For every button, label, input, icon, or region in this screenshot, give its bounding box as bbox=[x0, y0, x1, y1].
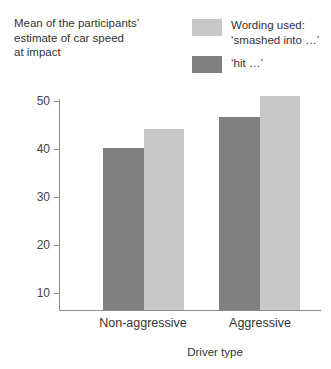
x-axis-line bbox=[59, 310, 321, 311]
y-tick-label-30-wrap: 30 bbox=[20, 191, 50, 203]
y-tick-label-40-wrap: 40 bbox=[20, 143, 50, 155]
x-axis-title: Driver type bbox=[155, 345, 275, 359]
y-tick-label-20: 20 bbox=[24, 239, 50, 251]
y-tick-label-50-wrap: 50 bbox=[20, 95, 50, 107]
bar-non-aggressive-hit bbox=[103, 148, 144, 310]
y-tick-label-50: 50 bbox=[24, 95, 50, 107]
x-group-label-non-aggressive: Non-aggressive bbox=[83, 316, 203, 331]
y-tick-mark-50 bbox=[54, 101, 60, 102]
x-group-label-aggressive: Aggressive bbox=[210, 316, 310, 331]
y-tick-mark-20 bbox=[54, 245, 60, 246]
bar-non-aggressive-smashed-into bbox=[144, 129, 184, 310]
bar-aggressive-hit bbox=[219, 117, 260, 310]
y-tick-label-40: 40 bbox=[24, 143, 50, 155]
y-tick-label-30: 30 bbox=[24, 191, 50, 203]
bar-aggressive-smashed-into bbox=[260, 96, 300, 310]
y-tick-label-10: 10 bbox=[24, 287, 50, 299]
y-tick-mark-30 bbox=[54, 197, 60, 198]
y-tick-label-20-wrap: 20 bbox=[20, 239, 50, 251]
bar-chart-plot: 50 40 30 20 10 Non-aggressive Aggressive… bbox=[0, 0, 331, 369]
y-tick-mark-10 bbox=[54, 293, 60, 294]
y-tick-mark-40 bbox=[54, 149, 60, 150]
y-tick-label-10-wrap: 10 bbox=[20, 287, 50, 299]
y-axis-line bbox=[59, 99, 60, 311]
